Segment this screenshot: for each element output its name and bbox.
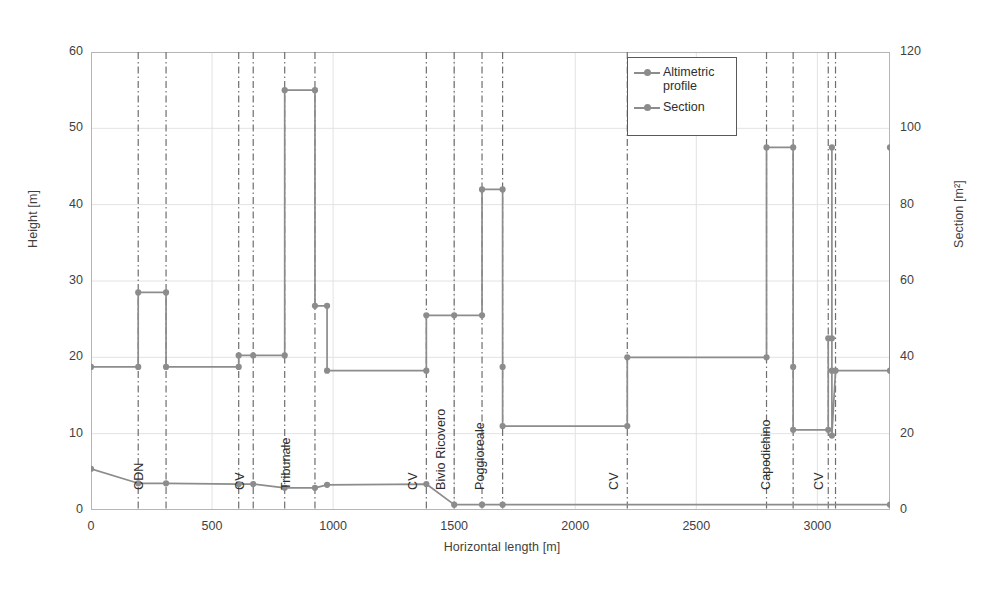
- x-axis-tick-label: 1500: [424, 519, 484, 533]
- data-point: [282, 352, 288, 358]
- data-point: [887, 502, 890, 508]
- data-point: [423, 312, 429, 318]
- altimetric-profile-chart: Height [m] Section [m²] Horizontal lengt…: [0, 0, 1004, 595]
- data-point: [500, 364, 506, 370]
- data-point: [312, 87, 318, 93]
- data-point: [312, 485, 318, 491]
- data-point: [500, 423, 506, 429]
- data-point: [91, 466, 94, 472]
- x-axis-tick-label: 2000: [545, 519, 605, 533]
- y-axis-right-tick-label: 20: [900, 426, 940, 440]
- data-point: [887, 144, 890, 150]
- data-point: [790, 144, 796, 150]
- marker-label: CV: [812, 472, 826, 490]
- data-point: [163, 289, 169, 295]
- legend-item-altimetric-profile: Altimetric profile: [634, 65, 736, 93]
- data-point: [829, 335, 835, 341]
- marker-label: Capodichino: [759, 419, 773, 490]
- y-axis-right-tick-label: 40: [900, 349, 940, 363]
- data-point: [282, 87, 288, 93]
- data-point: [832, 368, 838, 374]
- legend-label: Altimetric profile: [663, 65, 736, 93]
- data-point: [479, 186, 485, 192]
- marker-label: CDN: [132, 463, 146, 490]
- legend-label: Section: [663, 100, 705, 114]
- marker-label: CV: [406, 472, 420, 490]
- data-point: [790, 364, 796, 370]
- data-point: [763, 144, 769, 150]
- marker-label: Poggioreale: [473, 422, 487, 490]
- data-point: [624, 354, 630, 360]
- data-point: [500, 186, 506, 192]
- data-point: [250, 481, 256, 487]
- marker-label: CV: [607, 472, 621, 490]
- data-point: [500, 502, 506, 508]
- y-axis-left-tick-label: 20: [49, 349, 83, 363]
- y-axis-left-title: Height [m]: [26, 190, 40, 248]
- data-point: [236, 364, 242, 370]
- data-point: [423, 368, 429, 374]
- data-point: [250, 352, 256, 358]
- data-point: [324, 482, 330, 488]
- marker-label: CV: [233, 472, 247, 490]
- y-axis-left-tick-label: 10: [49, 426, 83, 440]
- data-point: [451, 502, 457, 508]
- data-point: [790, 427, 796, 433]
- data-point: [236, 352, 242, 358]
- chart-legend: Altimetric profile Section: [627, 57, 737, 136]
- data-point: [479, 502, 485, 508]
- y-axis-right-tick-label: 100: [900, 120, 940, 134]
- legend-marker-icon: [634, 66, 660, 80]
- y-axis-left-tick-label: 60: [49, 44, 83, 58]
- legend-marker-icon: [634, 101, 660, 115]
- marker-label: Bivio Ricovero: [434, 409, 448, 490]
- data-point: [829, 432, 835, 438]
- x-axis-tick-label: 0: [61, 519, 121, 533]
- data-point: [887, 368, 890, 374]
- data-point: [135, 364, 141, 370]
- data-point: [91, 364, 94, 370]
- x-axis-tick-label: 500: [182, 519, 242, 533]
- data-point: [324, 303, 330, 309]
- data-point: [135, 289, 141, 295]
- data-point: [423, 481, 429, 487]
- y-axis-right-tick-label: 120: [900, 44, 940, 58]
- y-axis-left-tick-label: 30: [49, 273, 83, 287]
- data-point: [624, 423, 630, 429]
- data-point: [763, 354, 769, 360]
- y-axis-right-title: Section [m²]: [952, 180, 966, 248]
- x-axis-title: Horizontal length [m]: [0, 540, 1004, 554]
- y-axis-right-tick-label: 60: [900, 273, 940, 287]
- data-point: [451, 312, 457, 318]
- data-point: [312, 303, 318, 309]
- y-axis-left-tick-label: 40: [49, 197, 83, 211]
- x-axis-tick-label: 2500: [666, 519, 726, 533]
- data-point: [163, 364, 169, 370]
- legend-item-section: Section: [634, 100, 736, 115]
- data-point: [479, 312, 485, 318]
- y-axis-left-tick-label: 50: [49, 120, 83, 134]
- x-axis-tick-label: 1000: [303, 519, 363, 533]
- y-axis-right-tick-label: 80: [900, 197, 940, 211]
- series-line-section: [91, 90, 890, 435]
- data-point: [825, 427, 831, 433]
- x-axis-tick-label: 3000: [787, 519, 847, 533]
- data-point: [829, 144, 835, 150]
- y-axis-right-tick-label: 0: [900, 502, 940, 516]
- data-point: [163, 480, 169, 486]
- y-axis-left-tick-label: 0: [49, 502, 83, 516]
- data-point: [324, 368, 330, 374]
- marker-label: Tribunale: [279, 437, 293, 490]
